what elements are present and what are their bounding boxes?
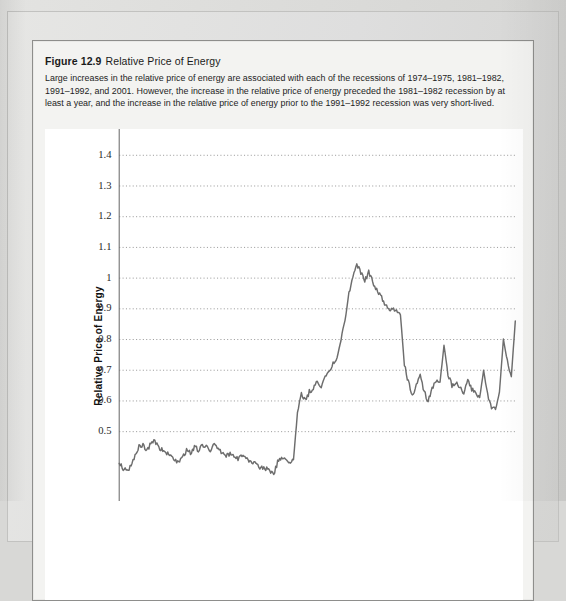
gridlines [119,155,515,431]
figure-title: Relative Price of Energy [106,55,221,67]
y-tick-label: 0.5 [98,424,111,436]
y-tick-label: 1.1 [98,240,111,252]
line-chart: 0.50.60.70.80.911.11.21.31.4 [45,129,523,501]
y-tick-label: 1 [106,270,111,282]
figure-caption: Figure 12.9Relative Price of Energy Larg… [45,54,521,110]
page-sheet: Figure 12.9Relative Price of Energy Larg… [8,12,558,541]
figure-inner: Figure 12.9Relative Price of Energy Larg… [33,41,533,600]
figure-box: Figure 12.9Relative Price of Energy Larg… [32,40,534,601]
series-line-relative-price-of-energy [119,264,515,475]
y-axis-title: Relative Price of Energy [93,286,104,405]
chart-area: Relative Price of Energy 0.50.60.70.80.9… [45,129,523,600]
figure-number: Figure 12.9 [45,55,102,67]
y-tick-label: 1.3 [98,178,111,190]
figure-caption-text: Large increases in the relative price of… [45,72,521,110]
y-tick-label: 1.2 [98,209,111,221]
y-tick-label: 1.4 [98,148,112,160]
figure-title-line: Figure 12.9Relative Price of Energy [45,54,521,68]
